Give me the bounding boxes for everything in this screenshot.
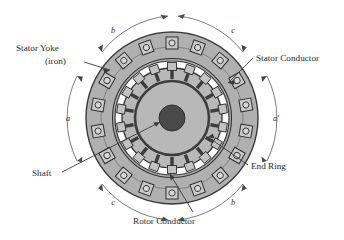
label-stator-conductor: Stator Conductor — [256, 53, 319, 63]
phase-label-b-top: b — [111, 26, 115, 35]
label-rotor-conductor: Rotor Conductor — [133, 216, 195, 226]
label-shaft: Shaft — [32, 168, 52, 178]
label-stator-yoke-line1: Stator Yoke — [16, 43, 59, 53]
induction-motor-cross-section: b c a a' c b — [0, 0, 344, 240]
phase-label-c-top: c — [231, 26, 235, 35]
phase-label-c-bottom: c — [111, 198, 115, 207]
figure-canvas: b c a a' c b — [0, 0, 344, 240]
shaft-circle — [159, 105, 185, 131]
phase-label-b-bottom: b — [231, 198, 235, 207]
label-stator-yoke-line2: (iron) — [45, 56, 66, 66]
label-end-ring: End Ring — [251, 161, 286, 171]
phase-label-a-prime-right: a' — [273, 114, 279, 123]
phase-label-a-left: a — [66, 114, 70, 123]
